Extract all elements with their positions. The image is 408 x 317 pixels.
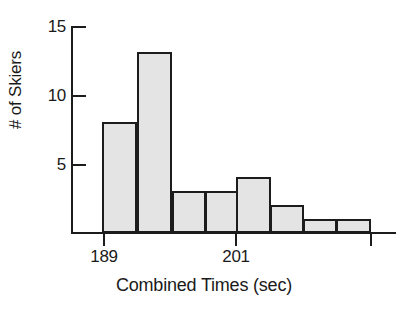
histogram-bar bbox=[336, 219, 371, 233]
histogram-bar bbox=[270, 205, 304, 233]
y-tick-mark-15 bbox=[73, 26, 86, 28]
histogram-bar bbox=[236, 177, 271, 233]
x-axis-line bbox=[71, 232, 396, 234]
x-tick-label-189: 189 bbox=[90, 247, 117, 266]
x-tick-mark-201 bbox=[235, 234, 237, 246]
y-tick-mark-10 bbox=[73, 95, 86, 97]
histogram-bar bbox=[303, 219, 337, 233]
x-tick-label-201: 201 bbox=[222, 247, 249, 266]
histogram-bar bbox=[205, 191, 239, 233]
y-tick-label-5: 5 bbox=[38, 156, 66, 173]
histogram-bar bbox=[172, 191, 206, 233]
histogram-figure: # of Skiers 15 10 5 189 201 Combined Tim… bbox=[0, 0, 408, 317]
histogram-bar bbox=[137, 52, 172, 233]
y-axis-title-text: # of Skiers bbox=[6, 35, 26, 145]
y-tick-label-10-wrap: 10 bbox=[30, 87, 66, 104]
histogram-bar bbox=[102, 122, 137, 233]
y-tick-label-15: 15 bbox=[38, 18, 66, 35]
y-axis-title: # of Skiers bbox=[6, 35, 30, 145]
y-axis-line bbox=[71, 26, 73, 234]
x-tick-mark-189 bbox=[103, 234, 105, 246]
y-tick-label-10: 10 bbox=[38, 87, 66, 104]
y-tick-label-5-wrap: 5 bbox=[30, 156, 66, 173]
y-tick-label-15-wrap: 15 bbox=[30, 18, 66, 35]
x-tick-mark-right bbox=[370, 234, 372, 246]
x-axis-title: Combined Times (sec) bbox=[0, 275, 408, 296]
y-tick-mark-5 bbox=[73, 164, 86, 166]
plot-area bbox=[102, 20, 372, 233]
